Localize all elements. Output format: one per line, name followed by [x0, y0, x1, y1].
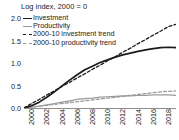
x-axis-tick-label: 2002	[42, 109, 51, 125]
chart-title: Log index, 2000 = 0	[21, 2, 87, 11]
y-axis-tick-label: 2.0	[4, 14, 21, 23]
x-axis-tick-label: 2012	[118, 109, 127, 125]
plot-area	[24, 18, 176, 108]
y-axis-tick-label: 1.0	[4, 59, 21, 68]
y-axis-tick-label: 0.0	[4, 104, 21, 113]
x-axis-tick-label: 2010	[103, 109, 112, 125]
series-lines	[24, 18, 176, 108]
x-axis-tick-label: 2016	[149, 109, 158, 125]
x-axis-tick-label: 2000	[27, 109, 36, 125]
x-axis: 2000200220042006200820102012201420162018…	[24, 109, 176, 140]
x-axis-tick-label: 2004	[58, 109, 67, 125]
y-axis: 2.01.51.00.50.0	[2, 0, 21, 140]
y-axis-tick-label: 1.5	[4, 36, 21, 45]
x-axis-tick-label: 2018	[164, 109, 173, 125]
x-axis-tick-label: 2006	[73, 109, 82, 125]
y-axis-tick-label: 0.5	[4, 81, 21, 90]
x-axis-tick-label: 2014	[134, 109, 143, 125]
chart-container: Log index, 2000 = 0 InvestmentProductivi…	[0, 0, 179, 140]
x-axis-tick-label: 2008	[88, 109, 97, 125]
series-line-investment	[24, 47, 176, 108]
